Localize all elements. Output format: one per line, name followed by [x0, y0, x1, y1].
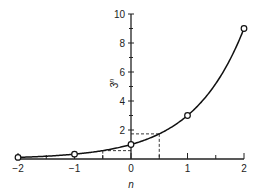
data-point-marker — [15, 155, 21, 161]
data-point-marker — [72, 151, 78, 157]
x-tick-label: 1 — [185, 163, 191, 174]
y-tick-label: 2 — [119, 125, 125, 136]
x-tick-label: 2 — [241, 163, 247, 174]
data-point-marker — [128, 142, 134, 148]
exponential-chart: −2−1012246810n3n — [0, 0, 260, 195]
y-tick-label: 6 — [119, 67, 125, 78]
x-axis-label: n — [128, 179, 134, 190]
x-tick-label: −2 — [12, 163, 24, 174]
x-tick-label: −1 — [69, 163, 81, 174]
y-axis-label: 3n — [108, 79, 120, 89]
data-point-marker — [241, 26, 247, 32]
y-tick-label: 10 — [114, 9, 126, 20]
data-point-marker — [185, 113, 191, 119]
y-tick-label: 8 — [119, 38, 125, 49]
y-tick-label: 4 — [119, 96, 125, 107]
x-tick-label: 0 — [128, 163, 134, 174]
